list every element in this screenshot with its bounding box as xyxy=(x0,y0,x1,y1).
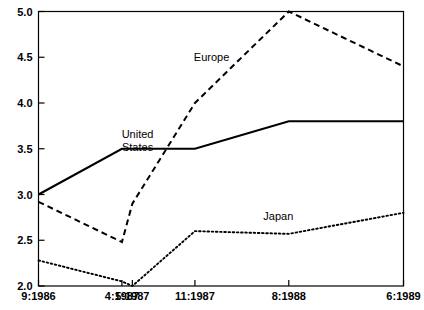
y-tick-label: 3.0 xyxy=(17,189,32,201)
x-tick-label: 8:1988 xyxy=(272,290,306,302)
series-label-europe: Europe xyxy=(194,51,229,63)
y-tick-label: 4.0 xyxy=(17,97,32,109)
x-tick-label: 6:1989 xyxy=(386,290,420,302)
y-tick-label: 4.5 xyxy=(17,51,32,63)
chart-canvas: 2.02.53.03.54.04.55.0 9:19864:19875:1987… xyxy=(0,0,424,310)
y-tick-label: 2.5 xyxy=(17,234,32,246)
x-tick-label: 5:1987 xyxy=(115,290,149,302)
y-tick-label: 5.0 xyxy=(17,6,32,18)
x-tick-label: 11:1987 xyxy=(175,290,215,302)
series-label-states: States xyxy=(122,141,154,153)
y-tick-label: 3.5 xyxy=(17,143,32,155)
series-label-japan: Japan xyxy=(263,210,293,222)
x-tick-label: 9:1986 xyxy=(21,290,55,302)
line-chart: 2.02.53.03.54.04.55.0 9:19864:19875:1987… xyxy=(0,0,424,310)
series-label-united: United xyxy=(122,128,154,140)
